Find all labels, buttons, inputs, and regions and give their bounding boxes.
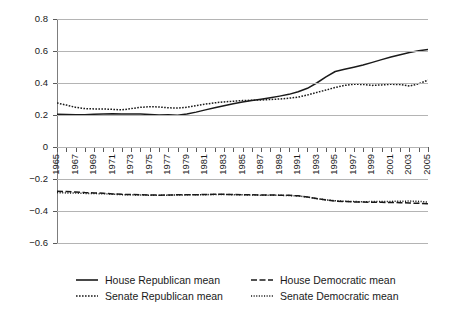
chart-legend: House Republican meanHouse Democratic me… bbox=[76, 272, 416, 308]
gridline bbox=[57, 51, 428, 52]
x-tick-label: 2005 bbox=[423, 154, 432, 175]
y-tick-label: 0.4 bbox=[8, 78, 48, 87]
x-tick-label: 2001 bbox=[386, 154, 395, 175]
chart-figure: 0.80.60.40.20−0.2−0.4−0.6 19651967196919… bbox=[0, 0, 449, 315]
x-tick-label: 1981 bbox=[200, 154, 209, 175]
x-tick-label: 1985 bbox=[238, 154, 247, 175]
x-tick-label: 1983 bbox=[219, 154, 228, 175]
y-tick-label: 0.6 bbox=[8, 46, 48, 55]
series-line bbox=[57, 80, 428, 110]
x-tick-label: 1977 bbox=[163, 154, 172, 175]
x-tick-label: 1991 bbox=[293, 154, 302, 175]
gridline bbox=[57, 83, 428, 84]
x-tick-label: 1987 bbox=[256, 154, 265, 175]
legend-swatch-dashed-icon bbox=[251, 275, 273, 285]
legend-label: House Democratic mean bbox=[280, 274, 396, 286]
x-tick-label: 1969 bbox=[89, 154, 98, 175]
gridline bbox=[57, 115, 428, 116]
x-tick-label: 1971 bbox=[108, 154, 117, 175]
legend-item[interactable]: House Republican mean bbox=[76, 272, 220, 287]
legend-item[interactable]: Senate Democratic mean bbox=[251, 288, 398, 303]
series-line bbox=[57, 191, 428, 203]
y-tick-label: −0.6 bbox=[8, 238, 48, 247]
x-tick-label: 2003 bbox=[404, 154, 413, 175]
x-tick-label: 1989 bbox=[275, 154, 284, 175]
legend-item[interactable]: Senate Republican mean bbox=[76, 288, 223, 303]
legend-item[interactable]: House Democratic mean bbox=[251, 272, 396, 287]
y-tick-label: 0.8 bbox=[8, 14, 48, 23]
x-tick-label: 1975 bbox=[145, 154, 154, 175]
plot-area bbox=[57, 19, 428, 243]
x-tick-label: 1997 bbox=[349, 154, 358, 175]
x-tick-label: 1999 bbox=[367, 154, 376, 175]
gridline bbox=[57, 179, 428, 180]
series-line bbox=[57, 193, 428, 202]
legend-label: Senate Democratic mean bbox=[280, 290, 398, 302]
legend-swatch-solid-icon bbox=[76, 275, 98, 285]
gridline bbox=[57, 147, 428, 148]
x-tick-label: 1965 bbox=[52, 154, 61, 175]
gridline bbox=[57, 19, 428, 20]
y-tick-label: −0.4 bbox=[8, 206, 48, 215]
legend-label: Senate Republican mean bbox=[105, 290, 223, 302]
gridline bbox=[57, 211, 428, 212]
legend-swatch-dotted-icon bbox=[76, 291, 98, 301]
x-tick-label: 1973 bbox=[126, 154, 135, 175]
legend-swatch-dotted-fine-icon bbox=[251, 291, 273, 301]
x-tick-label: 1995 bbox=[330, 154, 339, 175]
x-tick-label: 1979 bbox=[182, 154, 191, 175]
y-tick-label: −0.2 bbox=[8, 174, 48, 183]
y-tick-label: 0 bbox=[8, 142, 48, 151]
x-tick-label: 1967 bbox=[71, 154, 80, 175]
x-tick-label: 1993 bbox=[312, 154, 321, 175]
gridline bbox=[57, 243, 428, 244]
y-tick-label: 0.2 bbox=[8, 110, 48, 119]
x-tick-mark bbox=[428, 147, 429, 152]
series-layer bbox=[57, 19, 428, 243]
legend-label: House Republican mean bbox=[105, 274, 220, 286]
